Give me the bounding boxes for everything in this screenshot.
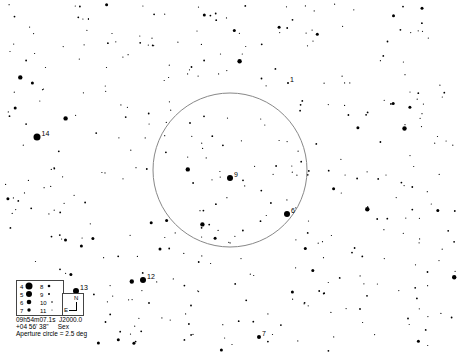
star [447,230,449,232]
star [407,318,409,320]
star [239,33,240,34]
star [9,115,11,117]
star [165,219,168,222]
star [385,174,386,175]
star [17,200,19,202]
star [295,207,296,208]
star [189,69,190,70]
star [122,178,123,179]
star [201,255,202,256]
star [260,190,262,192]
star [45,67,46,68]
star [356,126,359,129]
star [39,100,40,101]
star [226,197,227,198]
star [224,337,225,338]
star [149,123,150,124]
star [220,349,223,352]
star [142,5,143,6]
legend-magnitude-label: 7 [20,308,24,314]
star [59,268,61,270]
star [107,301,108,302]
star [231,344,232,345]
star [452,145,453,146]
star [84,202,86,204]
star [304,247,307,250]
star [90,223,91,224]
star [295,239,296,240]
star [138,318,139,319]
star [297,340,298,341]
star [408,106,411,109]
star [300,104,302,106]
legend-star-glyph [26,283,33,290]
star [59,212,61,214]
star [23,145,24,146]
star [134,326,135,327]
star [192,334,193,335]
star [334,4,335,5]
star [305,5,306,6]
star [210,15,212,17]
star [191,66,193,68]
star [318,290,320,292]
star [164,80,165,81]
star [119,331,121,333]
star-label: 7 [262,330,266,337]
star [415,264,416,265]
star [51,169,52,170]
star [286,6,287,7]
star [396,197,397,198]
star [348,114,350,116]
constellation-value: Sex [58,323,69,330]
legend-magnitude-label: 4 [20,284,24,290]
star [436,209,439,212]
star [148,302,150,304]
star [234,283,236,285]
star [307,45,308,46]
star [132,299,133,300]
star [240,258,241,259]
star [299,110,301,112]
star [431,203,432,204]
star [273,174,274,175]
star [318,243,319,244]
star [75,5,76,6]
star [418,30,419,31]
star [384,100,385,101]
star [12,213,13,214]
star [14,107,17,110]
star [168,77,169,78]
star [191,136,192,137]
star [118,137,119,138]
star [103,257,104,258]
star [211,179,212,180]
star [175,232,176,233]
star [187,73,188,74]
star [287,141,288,142]
star [295,267,296,268]
legend-star-glyph [51,301,53,303]
star [387,41,389,43]
star [420,118,421,119]
star [238,320,240,322]
star [409,324,410,325]
star [442,249,443,250]
star [452,275,456,279]
star [166,122,167,123]
coordinates-line-dec: +04 56' 38" Sex [16,323,69,330]
star [451,317,453,319]
star [439,85,440,86]
star-label: 6 [291,207,295,214]
star [24,192,25,193]
star [190,305,192,307]
star-label: 12 [147,273,155,280]
star [127,107,128,108]
star [107,42,109,44]
star [25,60,27,62]
star [84,44,85,45]
magnitude-legend-glyphs: 4567891011 [17,281,63,315]
star [308,220,309,221]
star [34,53,35,54]
star [423,104,424,105]
